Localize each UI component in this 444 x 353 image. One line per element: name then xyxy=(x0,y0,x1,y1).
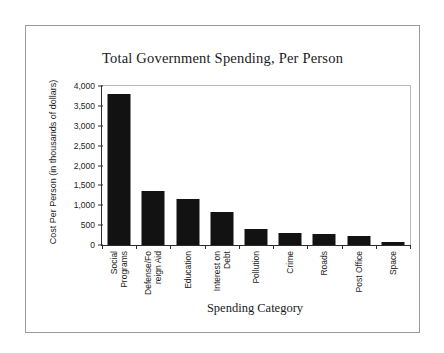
bar-slot: Space xyxy=(376,86,410,245)
bar[interactable] xyxy=(347,236,370,245)
x-axis-tick-mark xyxy=(273,245,274,249)
x-axis-tick-mark xyxy=(170,245,171,249)
bar[interactable] xyxy=(108,94,131,245)
bars-layer: SocialProgramsDefense/Foreign AidEducati… xyxy=(102,86,410,245)
x-axis-tick-mark xyxy=(205,245,206,249)
bar-slot: Defense/Foreign Aid xyxy=(136,86,170,245)
x-axis-tick-mark xyxy=(376,245,377,249)
bar[interactable] xyxy=(279,233,302,245)
bar-slot: Crime xyxy=(273,86,307,245)
bar[interactable] xyxy=(381,242,404,245)
x-axis-tick-mark xyxy=(102,245,103,249)
x-axis-tick-mark xyxy=(239,245,240,249)
bar-slot: Interest onDebt xyxy=(205,86,239,245)
bar[interactable] xyxy=(210,212,233,245)
x-axis-title: Spending Category xyxy=(101,301,409,316)
bar-slot: Post Office xyxy=(342,86,376,245)
bar-slot: Roads xyxy=(307,86,341,245)
x-axis-tick-mark xyxy=(136,245,137,249)
x-axis-tick-mark xyxy=(307,245,308,249)
y-axis-title: Cost Per Person (in thousands of dollars… xyxy=(48,72,58,252)
bar[interactable] xyxy=(313,234,336,245)
bar-slot: Education xyxy=(170,86,204,245)
plot-area: 05001,0001,5002,0002,5003,0003,5004,000 … xyxy=(101,85,411,246)
chart-title: Total Government Spending, Per Person xyxy=(26,50,419,67)
bar[interactable] xyxy=(142,191,165,245)
x-axis-tick-mark xyxy=(410,245,411,249)
bar[interactable] xyxy=(244,229,267,245)
x-axis-tick-mark xyxy=(342,245,343,249)
bar-slot: SocialPrograms xyxy=(102,86,136,245)
bar[interactable] xyxy=(176,199,199,245)
bar-slot: Pollution xyxy=(239,86,273,245)
figure-frame: Total Government Spending, Per Person Co… xyxy=(25,25,420,333)
